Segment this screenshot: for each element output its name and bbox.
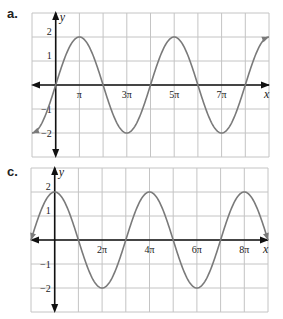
- y-tick-label: 2: [47, 26, 52, 37]
- y-tick-label: −2: [41, 128, 52, 139]
- y-tick-label: 2: [46, 181, 51, 192]
- y-axis-label: y: [58, 165, 65, 179]
- y-tick-label: −2: [40, 283, 51, 294]
- y-axis-up-arrow-icon: [52, 11, 59, 20]
- y-axis-up-arrow-icon: [51, 166, 58, 175]
- x-tick-label: 3π: [122, 89, 132, 100]
- x-tick-label: π: [77, 89, 82, 100]
- x-tick-label: 7π: [217, 89, 227, 100]
- graph-a: xyπ3π5π7π21−1−2: [31, 10, 270, 158]
- y-tick-label: 1: [46, 205, 51, 216]
- y-tick-label: −1: [40, 259, 51, 270]
- y-axis-label: y: [59, 10, 66, 24]
- x-tick-label: 2π: [97, 244, 107, 255]
- x-tick-label: 4π: [144, 244, 154, 255]
- x-tick-label: 5π: [169, 89, 179, 100]
- sinusoid-graphs: xyπ3π5π7π21−1−2xy2π4π6π8π21−1−2: [0, 0, 283, 319]
- x-axis-label: x: [262, 242, 269, 256]
- y-tick-label: 1: [47, 50, 52, 61]
- x-tick-label: 8π: [239, 244, 249, 255]
- graph-c: xy2π4π6π8π21−1−2: [30, 165, 269, 313]
- x-tick-label: 6π: [192, 244, 202, 255]
- x-axis-label: x: [263, 87, 270, 101]
